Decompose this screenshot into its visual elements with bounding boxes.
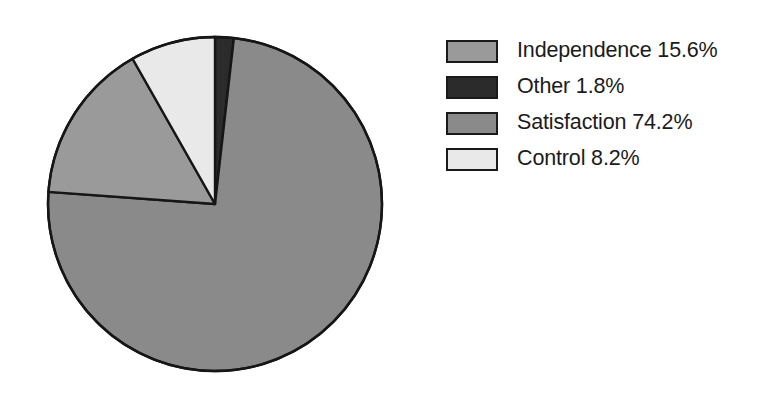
legend-item-satisfaction[interactable]: Satisfaction 74.2% bbox=[446, 105, 746, 141]
legend-swatch-other bbox=[446, 76, 498, 99]
legend-label-other: Other 1.8% bbox=[517, 76, 624, 98]
pie-slices bbox=[48, 37, 382, 371]
legend-label-independence: Independence 15.6% bbox=[517, 40, 718, 62]
legend-swatch-satisfaction bbox=[446, 112, 498, 135]
legend-label-control: Control 8.2% bbox=[517, 148, 640, 170]
legend-label-satisfaction: Satisfaction 74.2% bbox=[517, 112, 692, 134]
chart-legend: Independence 15.6% Other 1.8% Satisfacti… bbox=[446, 33, 746, 177]
legend-item-other[interactable]: Other 1.8% bbox=[446, 69, 746, 105]
legend-swatch-control bbox=[446, 148, 498, 171]
legend-item-control[interactable]: Control 8.2% bbox=[446, 141, 746, 177]
pie-chart bbox=[32, 21, 398, 387]
legend-item-independence[interactable]: Independence 15.6% bbox=[446, 33, 746, 69]
chart-canvas: Independence 15.6% Other 1.8% Satisfacti… bbox=[0, 0, 768, 397]
pie-chart-svg bbox=[32, 21, 398, 387]
legend-swatch-independence bbox=[446, 40, 498, 63]
